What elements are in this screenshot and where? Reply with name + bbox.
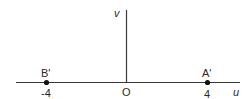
complex-plane-diagram: v u O B' -4 A' 4: [0, 0, 251, 99]
point-b-prime-label: B': [41, 67, 50, 79]
point-b-prime-value: -4: [41, 87, 51, 99]
origin-label: O: [122, 86, 131, 98]
point-a-prime-label: A': [202, 67, 211, 79]
point-a-prime-value: 4: [204, 88, 210, 99]
point-a-prime: [205, 80, 210, 85]
v-axis-label: v: [114, 7, 121, 19]
u-axis-label: u: [233, 86, 239, 98]
point-b-prime: [44, 80, 49, 85]
